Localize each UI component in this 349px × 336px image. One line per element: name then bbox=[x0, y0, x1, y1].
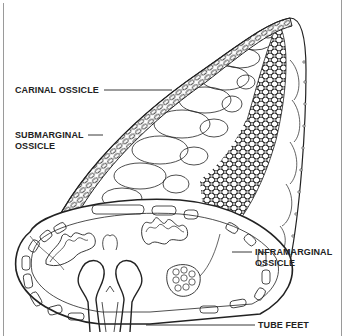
label-inframarginal-ossicle: INFRAMARGINAL OSSICLE bbox=[255, 247, 332, 269]
label-tube-feet: TUBE FEET bbox=[258, 320, 309, 331]
label-inframarginal-line1: INFRAMARGINAL bbox=[255, 247, 332, 258]
label-submarginal-ossicle: SUBMARGINAL OSSICLE bbox=[15, 130, 84, 152]
label-carinal-line1: CARINAL OSSICLE bbox=[15, 85, 99, 95]
label-tube-feet-line1: TUBE FEET bbox=[258, 320, 309, 330]
label-submarginal-line1: SUBMARGINAL bbox=[15, 130, 84, 141]
label-carinal-ossicle: CARINAL OSSICLE bbox=[15, 85, 99, 96]
starfish-arm-diagram: CARINAL OSSICLE SUBMARGINAL OSSICLE INFR… bbox=[0, 0, 349, 336]
label-submarginal-line2: OSSICLE bbox=[15, 141, 84, 152]
arm-illustration bbox=[0, 0, 349, 336]
label-inframarginal-line2: OSSICLE bbox=[255, 258, 332, 269]
